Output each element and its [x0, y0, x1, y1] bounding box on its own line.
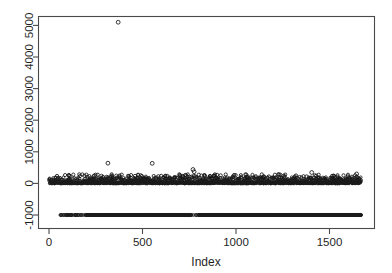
- x-tick-label: 0: [46, 236, 52, 248]
- scatter-plot-figure: 5000 4000 3000 2000 1000 0 -1000 0 500 1…: [0, 0, 392, 273]
- data-point: [63, 173, 66, 176]
- data-point: [116, 20, 120, 24]
- plot-frame: [39, 17, 375, 229]
- data-point: [342, 174, 345, 177]
- y-tick-label: -1000: [23, 200, 35, 229]
- y-tick-label: 3000: [23, 76, 35, 102]
- y-tick-label: 1000: [23, 139, 35, 165]
- data-point: [224, 173, 227, 176]
- y-tick-label: 2000: [23, 107, 35, 133]
- y-tick-label: 4000: [23, 44, 35, 70]
- data-point: [72, 173, 75, 176]
- data-point: [150, 161, 154, 165]
- x-axis-tick-labels: 0 500 1000 1500: [46, 236, 343, 248]
- x-tick-label: 1000: [223, 236, 249, 248]
- plot-canvas: 5000 4000 3000 2000 1000 0 -1000 0 500 1…: [0, 0, 392, 273]
- x-tick-label: 500: [133, 236, 152, 248]
- y-tick-label: 5000: [23, 13, 35, 39]
- y-axis-tick-labels: 5000 4000 3000 2000 1000 0 -1000: [23, 13, 35, 230]
- x-axis-title: Index: [191, 255, 220, 269]
- x-tick-label: 1500: [317, 236, 343, 248]
- x-axis-ticks: [49, 229, 330, 235]
- data-points-layer: [48, 20, 363, 216]
- y-tick-label: 0: [23, 180, 35, 186]
- data-point: [106, 161, 110, 165]
- data-point: [310, 171, 314, 175]
